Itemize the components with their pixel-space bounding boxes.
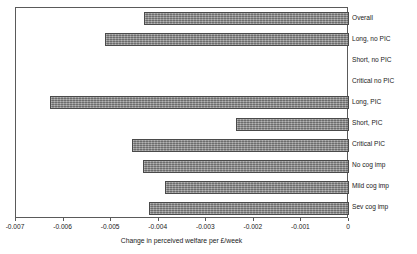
category-label: Mild cog imp: [352, 182, 417, 190]
category-label: Overall: [352, 14, 417, 22]
category-label: No cog imp: [352, 161, 417, 169]
bar-row: [16, 135, 347, 156]
category-label-list: OverallLong, no PICShort, no PICCritical…: [352, 7, 417, 218]
x-tick-label: -0.006: [53, 222, 72, 231]
bar-row: [16, 198, 347, 219]
x-tick-mark: [300, 218, 301, 221]
bar-row: [16, 71, 347, 92]
x-tick-label: -0.003: [196, 222, 215, 231]
plot-area: [15, 7, 348, 218]
bar: [143, 160, 349, 173]
category-label: Sev cog imp: [352, 203, 417, 211]
x-tick-label: -0.004: [148, 222, 167, 231]
x-axis-title: Change in perceived welfare per £/week: [15, 236, 348, 246]
bar-chart: OverallLong, no PICShort, no PICCritical…: [0, 0, 417, 254]
x-tick-label: -0.001: [291, 222, 310, 231]
x-tick-mark: [253, 218, 254, 221]
x-tick-mark: [110, 218, 111, 221]
bar-row: [16, 29, 347, 50]
x-tick-label: -0.002: [243, 222, 262, 231]
x-tick-mark: [158, 218, 159, 221]
category-label: Short, no PIC: [352, 56, 417, 64]
category-label: Long, no PIC: [352, 35, 417, 43]
bar-row: [16, 92, 347, 113]
category-label: Short, PIC: [352, 119, 417, 127]
x-tick-mark: [205, 218, 206, 221]
category-label: Long, PIC: [352, 98, 417, 106]
bar: [132, 139, 349, 152]
x-tick-mark: [63, 218, 64, 221]
bar: [165, 181, 349, 194]
bar: [105, 33, 349, 46]
bar-row: [16, 8, 347, 29]
bar-row: [16, 177, 347, 198]
bar-row: [16, 156, 347, 177]
bar: [236, 118, 349, 131]
category-label: Critical PIC: [352, 140, 417, 148]
x-axis: -0.007-0.006-0.005-0.004-0.003-0.002-0.0…: [15, 218, 348, 236]
bar: [50, 96, 349, 109]
x-tick-mark: [15, 218, 16, 221]
bar: [144, 12, 349, 25]
bar: [149, 202, 349, 215]
x-tick-label: 0: [346, 222, 350, 231]
x-tick-label: -0.007: [6, 222, 25, 231]
category-label: Critical no PIC: [352, 77, 417, 85]
x-tick-mark: [348, 218, 349, 221]
bar-row: [16, 114, 347, 135]
bar-row: [16, 50, 347, 71]
x-tick-label: -0.005: [101, 222, 120, 231]
